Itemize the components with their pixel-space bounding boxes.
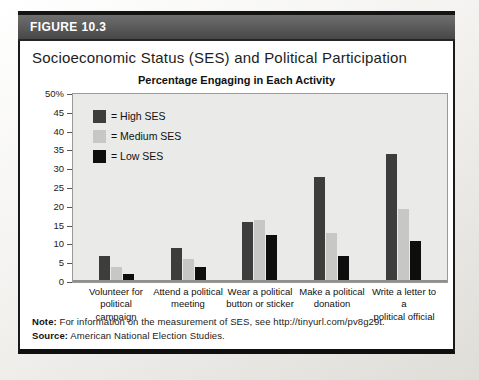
figure-card: FIGURE 10.3 Socioeconomic Status (SES) a… — [18, 11, 455, 354]
source-label: Source: — [32, 330, 68, 341]
bar-high-ses — [386, 154, 397, 282]
plot-wrap: = High SES= Medium SES= Low SES Voluntee… — [72, 93, 448, 323]
note: Note: For information on the measurement… — [32, 316, 385, 327]
note-label: Note: — [32, 316, 57, 327]
figure-header-bar: FIGURE 10.3 — [18, 15, 455, 41]
bar-medium-ses — [254, 220, 265, 282]
y-tick-label: 10 — [38, 239, 64, 248]
bar-high-ses — [171, 248, 182, 282]
plot-area: = High SES= Medium SES= Low SES — [72, 93, 448, 283]
figure-title: Socioeconomic Status (SES) and Political… — [20, 41, 453, 66]
y-tick-label: 15 — [38, 221, 64, 230]
bar-low-ses — [338, 256, 349, 282]
bar-group — [314, 177, 349, 282]
bar-group — [99, 256, 134, 282]
y-tick-label: 5 — [38, 258, 64, 267]
x-axis-baseline — [73, 280, 447, 282]
y-tick-label: 20 — [38, 202, 64, 211]
note-text: For information on the measurement of SE… — [60, 316, 385, 327]
y-tick-label: 30 — [38, 164, 64, 173]
y-tick-label: 50% — [38, 89, 64, 98]
bar-high-ses — [242, 222, 253, 282]
bar-group — [171, 248, 206, 282]
bar-group — [242, 220, 277, 282]
bar-groups — [73, 94, 447, 282]
source: Source: American National Election Studi… — [32, 330, 225, 341]
bar-medium-ses — [398, 209, 409, 282]
y-tick-label: 40 — [38, 127, 64, 136]
source-text: American National Election Studies. — [70, 330, 225, 341]
bar-chart: 05101520253035404550% = High SES= Medium… — [38, 93, 448, 323]
y-axis: 05101520253035404550% — [38, 93, 72, 283]
bar-medium-ses — [183, 259, 194, 282]
bar-group — [386, 154, 421, 282]
y-tick-label: 25 — [38, 183, 64, 192]
card-body: Socioeconomic Status (SES) and Political… — [18, 41, 455, 354]
y-tick-label: 35 — [38, 145, 64, 154]
bar-low-ses — [410, 241, 421, 282]
bar-high-ses — [99, 256, 110, 282]
bar-medium-ses — [326, 233, 337, 282]
bar-high-ses — [314, 177, 325, 282]
chart-title: Percentage Engaging in Each Activity — [20, 74, 453, 86]
y-tick-label: 45 — [38, 108, 64, 117]
figure-label: FIGURE 10.3 — [30, 20, 106, 34]
y-tick-label: 0 — [38, 277, 64, 286]
bar-low-ses — [266, 235, 277, 282]
